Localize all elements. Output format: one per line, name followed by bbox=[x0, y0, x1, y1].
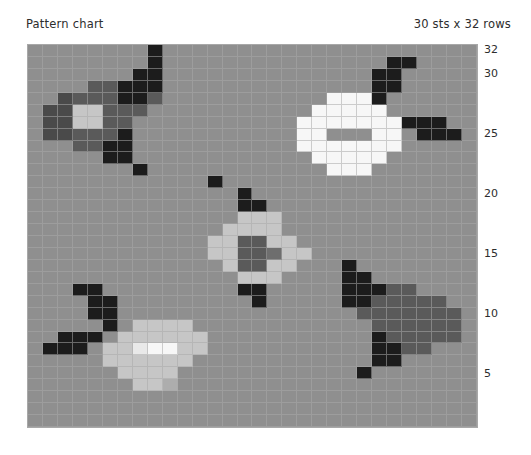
grid-cell[interactable] bbox=[88, 188, 103, 200]
grid-cell[interactable] bbox=[208, 379, 223, 391]
grid-cell[interactable] bbox=[327, 176, 342, 188]
grid-cell[interactable] bbox=[267, 403, 282, 415]
grid-cell[interactable] bbox=[103, 391, 118, 403]
grid-cell[interactable] bbox=[282, 200, 297, 212]
grid-cell[interactable] bbox=[372, 248, 387, 260]
grid-cell[interactable] bbox=[28, 284, 43, 296]
grid-cell[interactable] bbox=[372, 93, 387, 105]
grid-cell[interactable] bbox=[178, 176, 193, 188]
grid-cell[interactable] bbox=[73, 176, 88, 188]
grid-cell[interactable] bbox=[312, 200, 327, 212]
grid-cell[interactable] bbox=[402, 379, 417, 391]
grid-cell[interactable] bbox=[148, 391, 163, 403]
grid-cell[interactable] bbox=[193, 93, 208, 105]
grid-cell[interactable] bbox=[267, 224, 282, 236]
grid-cell[interactable] bbox=[387, 284, 402, 296]
grid-cell[interactable] bbox=[58, 236, 73, 248]
grid-cell[interactable] bbox=[432, 260, 447, 272]
grid-cell[interactable] bbox=[342, 152, 357, 164]
grid-cell[interactable] bbox=[43, 224, 58, 236]
grid-cell[interactable] bbox=[208, 141, 223, 153]
grid-cell[interactable] bbox=[193, 343, 208, 355]
grid-cell[interactable] bbox=[208, 367, 223, 379]
grid-cell[interactable] bbox=[447, 379, 462, 391]
grid-cell[interactable] bbox=[238, 152, 253, 164]
grid-cell[interactable] bbox=[372, 57, 387, 69]
grid-cell[interactable] bbox=[223, 141, 238, 153]
grid-cell[interactable] bbox=[148, 308, 163, 320]
grid-cell[interactable] bbox=[88, 248, 103, 260]
grid-cell[interactable] bbox=[312, 152, 327, 164]
grid-cell[interactable] bbox=[148, 200, 163, 212]
grid-cell[interactable] bbox=[118, 415, 133, 427]
grid-cell[interactable] bbox=[342, 117, 357, 129]
grid-cell[interactable] bbox=[103, 188, 118, 200]
grid-cell[interactable] bbox=[103, 248, 118, 260]
grid-cell[interactable] bbox=[282, 343, 297, 355]
grid-cell[interactable] bbox=[462, 260, 477, 272]
grid-cell[interactable] bbox=[417, 355, 432, 367]
grid-cell[interactable] bbox=[327, 236, 342, 248]
grid-cell[interactable] bbox=[432, 129, 447, 141]
grid-cell[interactable] bbox=[163, 200, 178, 212]
grid-cell[interactable] bbox=[208, 117, 223, 129]
grid-cell[interactable] bbox=[342, 81, 357, 93]
grid-cell[interactable] bbox=[148, 367, 163, 379]
grid-cell[interactable] bbox=[178, 355, 193, 367]
grid-cell[interactable] bbox=[133, 343, 148, 355]
grid-cell[interactable] bbox=[73, 224, 88, 236]
grid-cell[interactable] bbox=[282, 403, 297, 415]
grid-cell[interactable] bbox=[208, 188, 223, 200]
grid-cell[interactable] bbox=[88, 141, 103, 153]
grid-cell[interactable] bbox=[118, 81, 133, 93]
grid-cell[interactable] bbox=[238, 248, 253, 260]
grid-cell[interactable] bbox=[58, 45, 73, 57]
grid-cell[interactable] bbox=[118, 45, 133, 57]
grid-cell[interactable] bbox=[342, 93, 357, 105]
grid-cell[interactable] bbox=[387, 200, 402, 212]
grid-cell[interactable] bbox=[133, 212, 148, 224]
grid-cell[interactable] bbox=[118, 320, 133, 332]
grid-cell[interactable] bbox=[223, 272, 238, 284]
grid-cell[interactable] bbox=[88, 284, 103, 296]
grid-cell[interactable] bbox=[327, 200, 342, 212]
grid-cell[interactable] bbox=[312, 403, 327, 415]
grid-cell[interactable] bbox=[58, 141, 73, 153]
grid-cell[interactable] bbox=[462, 152, 477, 164]
grid-cell[interactable] bbox=[282, 260, 297, 272]
grid-cell[interactable] bbox=[357, 272, 372, 284]
grid-cell[interactable] bbox=[223, 367, 238, 379]
grid-cell[interactable] bbox=[252, 272, 267, 284]
grid-cell[interactable] bbox=[417, 152, 432, 164]
grid-cell[interactable] bbox=[223, 212, 238, 224]
grid-cell[interactable] bbox=[178, 308, 193, 320]
grid-cell[interactable] bbox=[357, 117, 372, 129]
grid-cell[interactable] bbox=[387, 379, 402, 391]
grid-cell[interactable] bbox=[402, 188, 417, 200]
grid-cell[interactable] bbox=[88, 224, 103, 236]
grid-cell[interactable] bbox=[372, 332, 387, 344]
grid-cell[interactable] bbox=[163, 355, 178, 367]
grid-cell[interactable] bbox=[133, 355, 148, 367]
grid-cell[interactable] bbox=[178, 45, 193, 57]
grid-cell[interactable] bbox=[297, 69, 312, 81]
grid-cell[interactable] bbox=[73, 296, 88, 308]
grid-cell[interactable] bbox=[327, 69, 342, 81]
grid-cell[interactable] bbox=[163, 236, 178, 248]
grid-cell[interactable] bbox=[163, 81, 178, 93]
grid-cell[interactable] bbox=[178, 332, 193, 344]
grid-cell[interactable] bbox=[432, 355, 447, 367]
grid-cell[interactable] bbox=[193, 236, 208, 248]
grid-cell[interactable] bbox=[312, 308, 327, 320]
grid-cell[interactable] bbox=[357, 355, 372, 367]
grid-cell[interactable] bbox=[417, 320, 432, 332]
grid-cell[interactable] bbox=[148, 320, 163, 332]
grid-cell[interactable] bbox=[267, 260, 282, 272]
grid-cell[interactable] bbox=[357, 260, 372, 272]
grid-cell[interactable] bbox=[432, 212, 447, 224]
grid-cell[interactable] bbox=[148, 332, 163, 344]
grid-cell[interactable] bbox=[402, 141, 417, 153]
grid-cell[interactable] bbox=[372, 260, 387, 272]
grid-cell[interactable] bbox=[357, 45, 372, 57]
grid-cell[interactable] bbox=[148, 129, 163, 141]
